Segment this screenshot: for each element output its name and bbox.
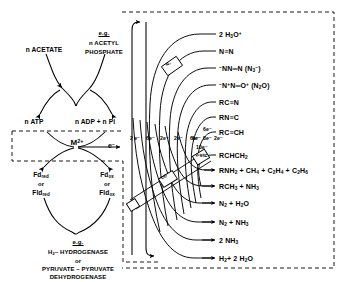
product-alkene: RCHCH2 [219, 152, 248, 161]
fld-red-line: Fldred [32, 190, 49, 197]
product-hydrogen-water: H2+ 2 H2O [219, 255, 253, 264]
fd-ox-or: or [104, 181, 110, 187]
metal-symbol: M [71, 138, 78, 147]
product-n2-water: N2 + H2O [219, 200, 249, 209]
adp-pi-label: n ADP + n Pi [75, 119, 115, 126]
electron-count-inner-0: 6e⁻ [203, 127, 212, 132]
product-amine-alkanes: RNH2 + CH4 + C2H4 + C2H6 [219, 167, 308, 176]
fd-ox-state: ox [108, 174, 113, 179]
substrate-label: n ACETATE [26, 47, 63, 54]
acetate-atp-cycle [40, 54, 112, 114]
electron-count-inner-1: 6e⁻ [192, 136, 201, 141]
enzyme-hydrogenase: H2– HYDROGENASE [48, 249, 108, 256]
electron-count-outer-0: 2 e⁻ [130, 136, 140, 141]
product-isocyanide: RN≡C [219, 114, 239, 121]
product-ammonia: 2 NH3 [219, 237, 238, 246]
fd-ox-line1: Fdox [100, 172, 114, 179]
electron-charge: − [112, 142, 115, 147]
electron-count-inner-3: 2e⁻ [214, 136, 223, 141]
product-alkyne: RC≡CH [219, 129, 244, 136]
eg-label-bottom: e.g. [72, 239, 83, 245]
enzyme-dehydrogenase: DEHYDROGENASE [50, 274, 107, 280]
fld-ox-symbol: Fld [99, 189, 109, 196]
product-n2-ammonia: N2 + NH3 [219, 219, 249, 228]
eg-label-top: e.g. [98, 30, 109, 36]
product-arrowheads [202, 170, 215, 258]
fld-red-symbol: Fld [32, 189, 42, 196]
diagram-vector-layer [0, 0, 341, 282]
fd-red-line1: Fdred [33, 172, 49, 179]
diagram-canvas: n ACETATE e.g. n ACETYL PHOSPHATE n ATP … [0, 0, 341, 282]
product-dinitrogen: N≡N [219, 48, 234, 55]
fld-ox-state: ox [109, 192, 114, 197]
product-nitrous-oxide: −N+N═O+ (N2O) [219, 82, 270, 91]
acetyl-phosphate-line1: n ACETYL [89, 40, 119, 46]
product-nitrile: RC≡N [219, 99, 239, 106]
product-hydronium: 2 H3O+ [219, 31, 242, 40]
enzyme-pyruvate: PYRUVATE – PYRUVATE [42, 266, 114, 272]
enzyme-or: or [75, 258, 81, 264]
fd-red-state: red [42, 174, 49, 179]
electron-count-inner-2: 8e⁻ [203, 136, 212, 141]
fld-ox-line: Fldox [99, 190, 115, 197]
electron-count-outer-1: 6e⁻ [146, 136, 155, 141]
hydrogenase-text: – HYDROGENASE [55, 249, 108, 255]
metal-charge: 2+ [77, 138, 83, 144]
product-alkane-ammonia: RCH3 + NH3 [219, 183, 259, 192]
acetyl-phosphate-line2: PHOSPHATE [85, 49, 123, 55]
electron-count-outer-3: 2e⁻ [174, 136, 183, 141]
electron-count-inner-4: 10e⁻ [196, 145, 208, 150]
n2-box-group [161, 56, 182, 75]
electron-label: e− [108, 142, 115, 149]
metal-ion-label: M2+ [71, 139, 84, 147]
inhibitor-box-n2 [161, 56, 182, 75]
product-azide: −NN═N (N3−) [219, 65, 261, 74]
inhibitor-box-end [126, 199, 139, 212]
fld-red-state: red [42, 192, 49, 197]
atp-label: n ATP [25, 119, 44, 126]
fd-red-or: or [38, 181, 44, 187]
electron-count-outer-2: 2e⁻ [160, 136, 169, 141]
